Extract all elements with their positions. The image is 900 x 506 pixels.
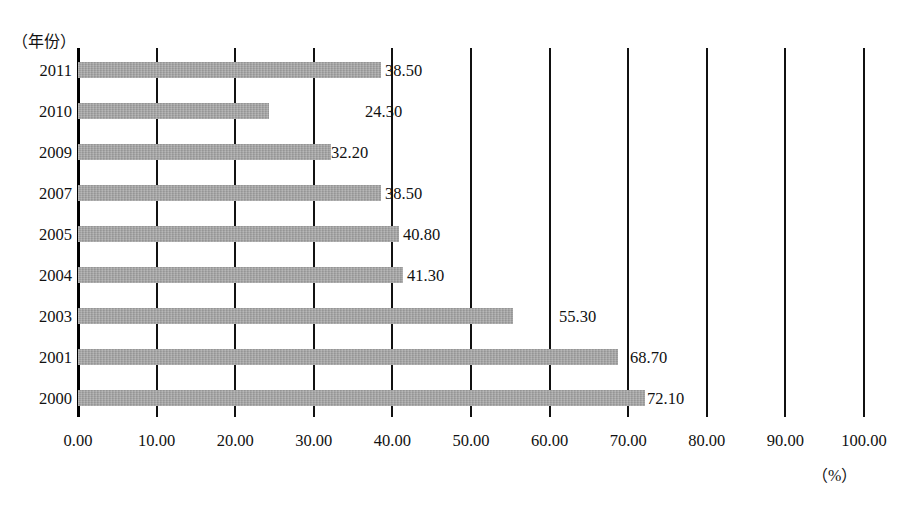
category-label-2000: 2000 [2, 391, 72, 407]
x-tick-100.00: 100.00 [841, 432, 886, 450]
bar-2003 [78, 308, 513, 324]
value-label-2003: 55.30 [559, 309, 596, 325]
bar-row [78, 103, 864, 119]
value-label-2000: 72.10 [647, 391, 684, 407]
x-tick-30.00: 30.00 [295, 432, 332, 450]
category-label-2001: 2001 [2, 350, 72, 366]
bar-2001 [78, 349, 618, 365]
bar-row [78, 226, 864, 242]
value-label-2005: 40.80 [403, 227, 440, 243]
value-label-2009: 32.20 [331, 145, 368, 161]
x-tick-10.00: 10.00 [138, 432, 175, 450]
bar-row [78, 390, 864, 406]
category-label-2010: 2010 [2, 104, 72, 120]
value-label-2007: 38.50 [385, 186, 422, 202]
x-tick-40.00: 40.00 [374, 432, 411, 450]
bar-2005 [78, 226, 399, 242]
x-tick-90.00: 90.00 [767, 432, 804, 450]
bar-row [78, 349, 864, 365]
category-label-2004: 2004 [2, 268, 72, 284]
bar-2000 [78, 390, 645, 406]
bar-row [78, 267, 864, 283]
x-tick-70.00: 70.00 [610, 432, 647, 450]
x-tick-20.00: 20.00 [217, 432, 254, 450]
bar-2009 [78, 144, 331, 160]
bar-row [78, 185, 864, 201]
bar-row [78, 144, 864, 160]
value-label-2010: 24.30 [365, 104, 402, 120]
x-tick-80.00: 80.00 [688, 432, 725, 450]
category-label-2003: 2003 [2, 309, 72, 325]
plot-area: 38.5024.3032.2038.5040.8041.3055.3068.70… [78, 48, 864, 417]
category-label-2005: 2005 [2, 227, 72, 243]
x-axis-tick-labels: 0.0010.0020.0030.0040.0050.0060.0070.008… [0, 432, 900, 456]
category-label-2011: 2011 [2, 63, 72, 79]
bar-2010 [78, 103, 269, 119]
x-axis-title: （%） [812, 462, 857, 486]
value-label-2001: 68.70 [630, 350, 667, 366]
x-tick-0.00: 0.00 [64, 432, 93, 450]
x-tick-50.00: 50.00 [452, 432, 489, 450]
bar-row [78, 308, 864, 324]
bar-chart: （年份） （%） 2011201020092007200520042003200… [0, 0, 900, 506]
value-label-2011: 38.50 [385, 63, 422, 79]
x-tick-60.00: 60.00 [531, 432, 568, 450]
bar-2007 [78, 185, 381, 201]
bar-2004 [78, 267, 403, 283]
value-label-2004: 41.30 [407, 268, 444, 284]
category-label-2007: 2007 [2, 186, 72, 202]
bar-2011 [78, 62, 381, 78]
category-label-2009: 2009 [2, 145, 72, 161]
bar-row [78, 62, 864, 78]
category-axis-labels: 201120102009200720052004200320012000 [0, 48, 72, 417]
